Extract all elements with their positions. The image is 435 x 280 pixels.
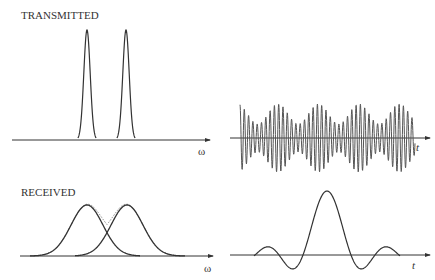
received-spectrum-gaussian-2 xyxy=(75,205,185,256)
figure-canvas xyxy=(0,0,435,280)
transmitted-label: TRANSMITTED xyxy=(21,9,99,21)
received-label: RECEIVED xyxy=(21,186,75,198)
received-spectrum-sum-dotted xyxy=(30,204,185,256)
t-axis-label-top: t xyxy=(416,141,419,153)
received-spectrum-gaussian-1 xyxy=(30,205,140,256)
transmitted-spectrum-peaks xyxy=(78,30,135,138)
omega-axis-label-bottom: ω xyxy=(204,262,211,274)
received-time-pulse xyxy=(254,191,400,269)
t-axis-label-bottom: t xyxy=(412,259,415,271)
omega-axis-label-top: ω xyxy=(198,145,205,157)
